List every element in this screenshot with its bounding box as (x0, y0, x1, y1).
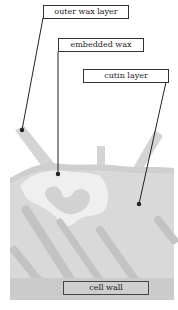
label-embedded-wax: embedded wax (58, 38, 144, 52)
label-cutin-layer: cutin layer (83, 69, 169, 83)
label-cell-wall: cell wall (63, 281, 149, 295)
label-outer-wax-layer: outer wax layer (43, 5, 129, 19)
cuticle-diagram: outer wax layer embedded wax cutin layer… (0, 0, 178, 310)
